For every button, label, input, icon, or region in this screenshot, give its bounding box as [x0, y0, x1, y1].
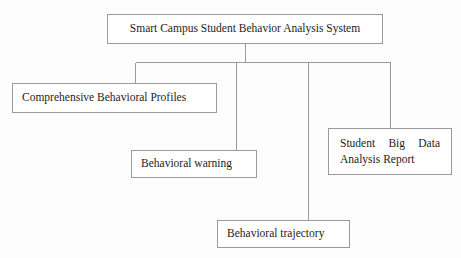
node-comprehensive-behavioral-profiles[interactable]: Comprehensive Behavioral Profiles	[12, 83, 217, 113]
node-student-big-data-analysis-report-label: Student Big Data Analysis Report	[340, 136, 440, 166]
node-behavioral-warning-label: Behavioral warning	[141, 156, 256, 171]
node-root-system-label: Smart Campus Student Behavior Analysis S…	[108, 21, 382, 36]
node-comprehensive-behavioral-profiles-label: Comprehensive Behavioral Profiles	[22, 90, 216, 105]
node-behavioral-trajectory-label: Behavioral trajectory	[227, 226, 349, 241]
node-behavioral-warning[interactable]: Behavioral warning	[131, 150, 257, 178]
diagram-canvas: Smart Campus Student Behavior Analysis S…	[0, 0, 461, 258]
node-root-system[interactable]: Smart Campus Student Behavior Analysis S…	[107, 14, 383, 44]
node-behavioral-trajectory[interactable]: Behavioral trajectory	[217, 220, 350, 248]
node-student-big-data-analysis-report[interactable]: Student Big Data Analysis Report	[328, 128, 452, 175]
